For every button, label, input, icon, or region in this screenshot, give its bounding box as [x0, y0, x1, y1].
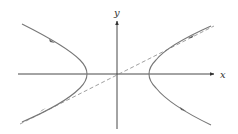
right-branch-curve [149, 26, 211, 125]
hyperbola-diagram: x y [0, 0, 238, 134]
y-axis-label: y [113, 7, 120, 18]
left-branch-curve [22, 24, 87, 122]
x-axis-label: x [220, 69, 226, 80]
